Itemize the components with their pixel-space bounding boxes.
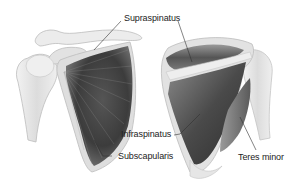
label-subscapularis: Subscapularis: [118, 152, 173, 161]
label-infraspinatus: Infraspinatus: [121, 130, 171, 139]
label-supraspinatus: Supraspinatus: [124, 14, 180, 23]
rotator-cuff-diagram: Supraspinatus Infraspinatus Subscapulari…: [0, 0, 297, 184]
label-teres-minor: Teres minor: [238, 153, 284, 162]
humeral-head-anterior: [26, 55, 54, 77]
leader-teres-minor: [240, 117, 256, 150]
